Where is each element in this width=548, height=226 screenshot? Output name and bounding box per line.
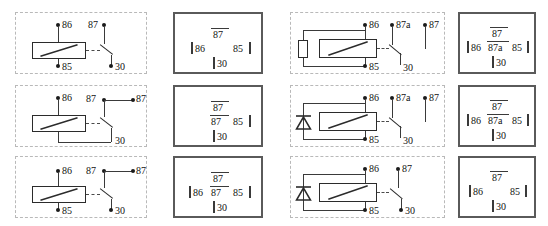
pin-dot-86 [363, 167, 367, 171]
pinout-middle-label: 87 [211, 117, 221, 127]
pinout-middle-label: 87a [488, 43, 502, 53]
no-contact-lead [425, 100, 426, 122]
pin-dot-86 [363, 23, 367, 27]
no-contact-lead [104, 102, 105, 117]
pin-dot-85 [363, 64, 367, 68]
pin-label-coil-minus: 85 [62, 206, 72, 216]
common-lead [400, 53, 401, 65]
pin-label-contact-top: 87a [396, 93, 410, 103]
pin-dot-86 [56, 96, 60, 100]
pinout-top-label: 87 [492, 173, 502, 183]
pin-dot-85 [363, 208, 367, 212]
pinout-bottom-label: 30 [496, 131, 506, 141]
no-contact-lead [104, 27, 105, 44]
pinout-cell-r3c2: 87 86 87 85 30 [173, 156, 263, 218]
pinout-bottom-label: 30 [496, 202, 506, 212]
pin-label-common: 30 [405, 206, 415, 216]
pinout-left-label: 86 [195, 44, 205, 54]
pin-right-bar [527, 114, 529, 126]
actuator-link [377, 48, 389, 49]
pin-right-bar [525, 185, 527, 197]
bridge-wire-87-87 [104, 171, 133, 172]
schematic-cell-r3c3: 86 85 87 30 [290, 156, 445, 218]
pinout-top-label: 87 [492, 102, 502, 112]
pin-dot-30 [399, 208, 403, 212]
pin-dot-86 [56, 23, 60, 27]
pin-right-bar [249, 115, 251, 127]
pinout-right-label: 85 [233, 117, 243, 127]
pin-dot-86 [363, 96, 367, 100]
pinout-right-label: 85 [233, 44, 243, 54]
pinout-bottom-label: 30 [217, 203, 227, 213]
relay-coil [32, 42, 86, 59]
coil-diagonal-icon [320, 113, 376, 130]
coil-bottom-lead [58, 132, 59, 142]
nc-contact-lead [392, 100, 393, 118]
suppressor-bottom-wire [303, 139, 365, 140]
pin-label-contact-extra: 87 [136, 166, 146, 176]
coil-diagonal-icon [33, 116, 85, 131]
pinout-top-label: 87 [213, 30, 223, 40]
pin-label-coil-minus: 85 [369, 135, 379, 145]
schematic-cell-r1c3: 86 85 87a 30 87 [290, 12, 445, 74]
suppressor-top-wire [303, 103, 365, 104]
pin-left-bar [469, 185, 471, 197]
pin-dot-85 [56, 64, 60, 68]
pin-dot-87 [396, 167, 400, 171]
schematic-cell-r2c1: 86 30 87 87 [15, 85, 147, 147]
pin-dot-87 [423, 23, 427, 27]
suppressor-bottom-wire [303, 66, 365, 67]
pin-label-common: 30 [115, 62, 125, 72]
relay-coil [319, 39, 377, 58]
suppression-resistor [298, 40, 308, 58]
pin-dot-85 [56, 208, 60, 212]
coil-diagonal-icon [33, 43, 85, 58]
pin-label-common: 30 [115, 136, 125, 146]
pin-label-contact-extra: 87 [136, 94, 146, 104]
pin-dot-87 [102, 23, 106, 27]
pinout-right-label: 85 [510, 187, 520, 197]
pinout-bottom-label: 30 [217, 132, 227, 142]
pin-dot-86 [56, 169, 60, 173]
coil-to-common-wire [58, 142, 111, 143]
pin-dot-87a [390, 96, 394, 100]
pin-label-contact-top: 87 [86, 94, 96, 104]
no-contact-lead [398, 171, 399, 188]
contact-arm [100, 188, 113, 199]
schematic-cell-r3c1: 86 85 87 87 30 [15, 156, 147, 218]
pinout-bottom-label: 30 [496, 58, 506, 68]
pinout-top-label: 87 [213, 103, 223, 113]
suppression-diode-icon [294, 112, 313, 132]
pin-bottom-bar [492, 56, 494, 68]
pinout-cell-r1c4: 87 86 87a 85 30 [458, 12, 536, 74]
pinout-right-label: 85 [233, 188, 243, 198]
pin-label-coil-plus: 86 [369, 93, 379, 103]
pin-label-contact-top: 87 [402, 164, 412, 174]
pinout-left-label: 86 [471, 116, 481, 126]
pin-label-common: 30 [403, 136, 413, 146]
pin-left-bar [191, 42, 193, 54]
bridge-wire-87-87 [104, 100, 133, 101]
pin-bottom-bar [492, 200, 494, 212]
pin-label-coil-plus: 86 [369, 20, 379, 30]
pin-label-contact-top: 87a [396, 20, 410, 30]
relay-coil [319, 112, 377, 131]
actuator-link [86, 194, 100, 195]
pin-bottom-bar [213, 57, 215, 69]
pinout-bottom-label: 30 [217, 59, 227, 69]
contact-arm [390, 188, 403, 199]
pinout-cell-r2c2: 87 87 85 30 [173, 85, 263, 147]
common-lead [400, 126, 401, 138]
pin-label-common: 30 [403, 63, 413, 73]
pin-left-bar [467, 114, 469, 126]
pinout-top-label: 87 [213, 174, 223, 184]
coil-diagonal-icon [33, 187, 85, 202]
pin-right-bar [249, 186, 251, 198]
pin-dot-87 [423, 96, 427, 100]
common-lead [111, 128, 112, 142]
pin-label-contact-extra: 87 [429, 20, 439, 30]
pinout-cell-r2c4: 87 86 87a 85 30 [458, 85, 536, 147]
pinout-left-label: 86 [471, 43, 481, 53]
relay-coil [32, 115, 86, 132]
relay-coil [319, 183, 377, 202]
